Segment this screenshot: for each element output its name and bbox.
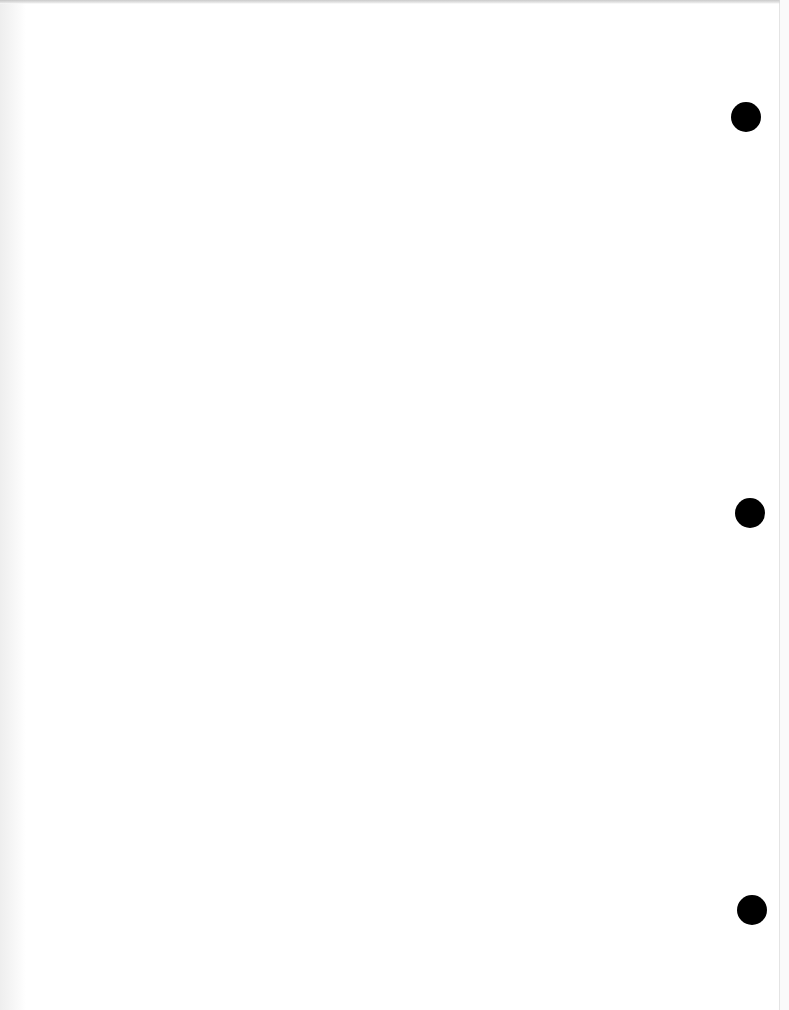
right-edge-scan-shadow <box>780 0 789 1010</box>
scanned-page <box>0 0 789 1010</box>
punch-hole-bottom <box>737 895 767 925</box>
left-edge-scan-shadow <box>0 0 26 1010</box>
punch-hole-top <box>731 102 761 132</box>
top-edge-scan-band <box>0 0 789 4</box>
punch-hole-middle <box>735 498 765 528</box>
